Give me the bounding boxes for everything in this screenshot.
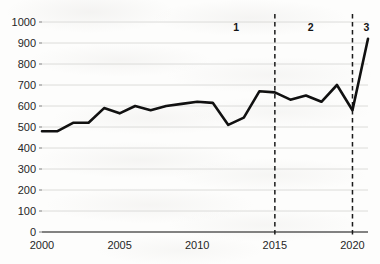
y-tick-label-1000: 1000 (12, 16, 36, 28)
y-tick-label-400: 400 (18, 142, 36, 154)
x-tick-label-2005: 2005 (107, 239, 131, 251)
region-annotation-group: 123 (233, 21, 369, 33)
y-tick-label-700: 700 (18, 79, 36, 91)
y-axis-tick-labels: 01002003004005006007008009001000 (12, 16, 42, 238)
chart-canvas: 01002003004005006007008009001000 2000200… (0, 0, 380, 264)
y-tick-label-500: 500 (18, 121, 36, 133)
gridline-group (42, 22, 368, 211)
y-tick-label-100: 100 (18, 205, 36, 217)
region-1-label: 1 (233, 21, 239, 33)
x-tick-label-2020: 2020 (340, 239, 364, 251)
y-tick-label-200: 200 (18, 184, 36, 196)
region-3-label: 3 (364, 21, 370, 33)
y-tick-label-0: 0 (30, 226, 36, 238)
x-axis-tick-labels: 20002005201020152020 (30, 239, 365, 251)
y-tick-label-600: 600 (18, 100, 36, 112)
vertical-divider-group (275, 14, 353, 238)
y-tick-label-300: 300 (18, 163, 36, 175)
region-2-label: 2 (308, 21, 314, 33)
x-tick-label-2010: 2010 (185, 239, 209, 251)
y-tick-label-800: 800 (18, 58, 36, 70)
line-chart: 01002003004005006007008009001000 2000200… (0, 0, 380, 264)
y-tick-label-900: 900 (18, 37, 36, 49)
x-tick-label-2015: 2015 (263, 239, 287, 251)
x-tick-label-2000: 2000 (30, 239, 54, 251)
